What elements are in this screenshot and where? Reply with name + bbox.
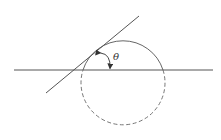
circle-lower-arc-dashed <box>81 70 165 125</box>
circle-upper-arc <box>83 41 163 70</box>
tangent-line <box>46 16 139 93</box>
angle-arc <box>101 53 111 69</box>
tangent-angle-diagram: θ <box>0 0 221 140</box>
angle-theta-label: θ <box>113 51 119 62</box>
